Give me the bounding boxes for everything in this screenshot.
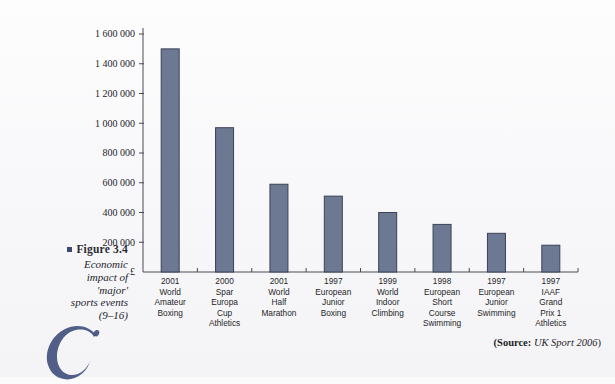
x-axis-category-label-line: Half xyxy=(252,297,306,308)
x-axis-category-label: 2001WorldHalfMarathon xyxy=(252,276,306,338)
x-axis-category-label: 1998EuropeanShortCourseSwimming xyxy=(415,276,469,338)
x-axis-category-label-line: Grand xyxy=(524,297,578,308)
x-axis-category-label: 1997IAAFGrandPrix 1Athletics xyxy=(524,276,578,338)
y-axis-tick-label: 400 000 xyxy=(103,207,136,218)
square-bullet-icon xyxy=(67,247,72,252)
x-axis-category-label-line: Junior xyxy=(306,297,360,308)
x-axis-category-label-line: Course xyxy=(415,308,469,319)
bar xyxy=(270,184,288,272)
x-axis-category-label-line: Athletics xyxy=(524,318,578,329)
y-axis-tick-label: 600 000 xyxy=(103,177,136,188)
x-axis-category-label-line: Spar xyxy=(197,287,251,298)
x-axis-category-label-line: 2000 xyxy=(197,276,251,287)
figure-caption: Figure 3.4 Economicimpact of'major'sport… xyxy=(0,243,128,322)
bar xyxy=(216,128,234,272)
figure-caption-line: 'major' xyxy=(0,284,128,297)
x-axis-category-label-line: World xyxy=(252,287,306,298)
y-axis-tick-label: 1 200 000 xyxy=(95,88,135,99)
x-axis-category-label-line: Boxing xyxy=(306,308,360,319)
x-axis-category-label-line: Boxing xyxy=(143,308,197,319)
figure-caption-line: impact of xyxy=(0,271,128,284)
bar xyxy=(542,245,560,272)
source-value: UK Sport 2006 xyxy=(534,337,598,348)
x-axis-category-label-line: European xyxy=(415,287,469,298)
bar xyxy=(379,213,397,273)
x-axis-category-label-line: Athletics xyxy=(197,318,251,329)
decorative-dropcap xyxy=(38,322,108,382)
x-axis-category-label: 1999WorldIndoorClimbing xyxy=(361,276,415,338)
x-axis-category-label-line: 1997 xyxy=(306,276,360,287)
x-axis-category-label-line: Amateur xyxy=(143,297,197,308)
bar xyxy=(487,233,505,272)
dropcap-letter-c-icon xyxy=(38,322,108,382)
y-axis-tick-label: 800 000 xyxy=(103,147,136,158)
x-axis-category-label-line: Cup xyxy=(197,308,251,319)
x-axis-category-label: 1997EuropeanJuniorSwimming xyxy=(469,276,523,338)
x-axis-category-label-line: Short xyxy=(415,297,469,308)
x-axis-category-label-line: 1997 xyxy=(469,276,523,287)
x-axis-category-label-line: Marathon xyxy=(252,308,306,319)
x-axis-category-label-line: 1999 xyxy=(361,276,415,287)
source-close-paren: ) xyxy=(598,337,602,348)
source-note: (Source: UK Sport 2006) xyxy=(494,337,601,348)
bar xyxy=(161,49,179,272)
source-label: (Source: xyxy=(494,337,532,348)
x-axis-category-label-line: Indoor xyxy=(361,297,415,308)
x-axis-category-label-line: European xyxy=(469,287,523,298)
x-axis-category-label-line: Swimming xyxy=(469,308,523,319)
y-axis-tick-label: 1 400 000 xyxy=(95,58,135,69)
figure-caption-line: sports events xyxy=(0,296,128,309)
x-axis-category-label-line: Prix 1 xyxy=(524,308,578,319)
bar xyxy=(324,196,342,272)
x-axis-category-label-line: European xyxy=(306,287,360,298)
x-axis-category-label-line: 1998 xyxy=(415,276,469,287)
x-axis-category-label-line: IAAF xyxy=(524,287,578,298)
figure-number-label: Figure 3.4 xyxy=(76,243,128,255)
x-axis-category-label-line: Swimming xyxy=(415,318,469,329)
x-axis-category-labels: 2001WorldAmateurBoxing2000SparEuropaCupA… xyxy=(143,276,578,338)
currency-axis-label: £ xyxy=(130,266,135,277)
x-axis-category-label-line: 2001 xyxy=(252,276,306,287)
x-axis-category-label: 2000SparEuropaCupAthletics xyxy=(197,276,251,338)
x-axis-category-label: 1997EuropeanJuniorBoxing xyxy=(306,276,360,338)
x-axis-category-label-line: Europa xyxy=(197,297,251,308)
x-axis-category-label-line: 1997 xyxy=(524,276,578,287)
figure-caption-body: Economicimpact of'major'sports events(9–… xyxy=(0,258,128,323)
figure-caption-line: Economic xyxy=(0,258,128,271)
x-axis-category-label-line: 2001 xyxy=(143,276,197,287)
figure-caption-line: (9–16) xyxy=(0,309,128,322)
bar xyxy=(433,224,451,272)
x-axis-category-label-line: Junior xyxy=(469,297,523,308)
y-axis-tick-label: 1 000 000 xyxy=(95,118,135,129)
y-axis-tick-label: 1 600 000 xyxy=(95,28,135,39)
figure-number-line: Figure 3.4 xyxy=(0,243,128,257)
x-axis-category-label-line: World xyxy=(361,287,415,298)
x-axis-category-label-line: World xyxy=(143,287,197,298)
x-axis-category-label: 2001WorldAmateurBoxing xyxy=(143,276,197,338)
x-axis-category-label-line: Climbing xyxy=(361,308,415,319)
